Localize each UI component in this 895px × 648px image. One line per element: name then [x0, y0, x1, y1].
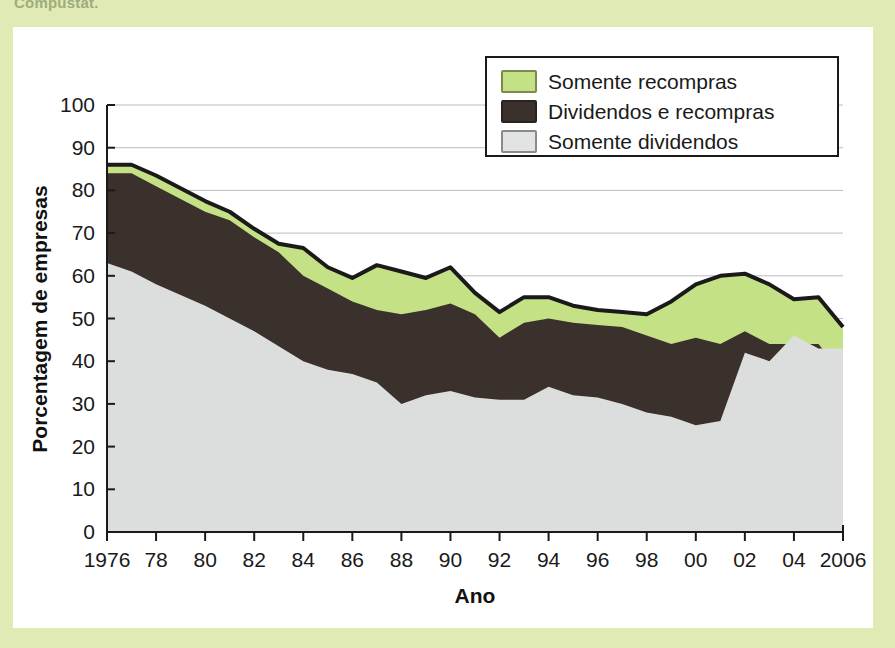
x-tick-marks	[107, 532, 843, 541]
x-tick-label: 82	[243, 548, 266, 571]
legend-swatch	[502, 131, 536, 152]
x-tick-label: 1976	[84, 548, 131, 571]
chart-legend: Somente recomprasDividendos e recomprasS…	[486, 57, 838, 156]
y-tick-label: 70	[72, 221, 95, 244]
y-axis-tick-labels: 0102030405060708090100	[60, 93, 95, 543]
y-tick-label: 20	[72, 435, 95, 458]
x-tick-label: 02	[733, 548, 756, 571]
x-tick-label: 2006	[820, 548, 867, 571]
legend-label: Dividendos e recompras	[548, 100, 774, 123]
x-tick-label: 98	[635, 548, 658, 571]
legend-swatch	[502, 71, 536, 92]
figure-panel: 0102030405060708090100 19767880828486889…	[13, 27, 873, 628]
legend-label: Somente recompras	[548, 70, 737, 93]
legend-swatch	[502, 101, 536, 122]
x-tick-label: 96	[586, 548, 609, 571]
x-tick-label: 92	[488, 548, 511, 571]
y-tick-label: 80	[72, 178, 95, 201]
y-tick-label: 40	[72, 349, 95, 372]
y-tick-label: 60	[72, 264, 95, 287]
x-tick-label: 04	[782, 548, 806, 571]
legend-label: Somente dividendos	[548, 130, 738, 153]
x-tick-label: 78	[144, 548, 167, 571]
y-tick-label: 30	[72, 392, 95, 415]
y-tick-label: 50	[72, 307, 95, 330]
x-tick-label: 86	[341, 548, 364, 571]
y-axis-title: Porcentagem de empresas	[28, 185, 51, 452]
x-tick-label: 84	[292, 548, 316, 571]
x-axis-title: Ano	[455, 584, 496, 607]
y-tick-label: 100	[60, 93, 95, 116]
area-series-group	[107, 165, 843, 532]
x-tick-label: 00	[684, 548, 707, 571]
stacked-area-chart: 0102030405060708090100 19767880828486889…	[13, 27, 873, 628]
x-tick-label: 94	[537, 548, 561, 571]
y-tick-label: 0	[83, 520, 95, 543]
x-tick-label: 80	[193, 548, 216, 571]
x-axis-tick-labels: 197678808284868890929496980002042006	[84, 548, 867, 571]
x-tick-label: 90	[439, 548, 462, 571]
y-tick-label: 90	[72, 136, 95, 159]
x-tick-label: 88	[390, 548, 413, 571]
y-tick-label: 10	[72, 477, 95, 500]
page-caption: Compustat.	[14, 0, 99, 11]
